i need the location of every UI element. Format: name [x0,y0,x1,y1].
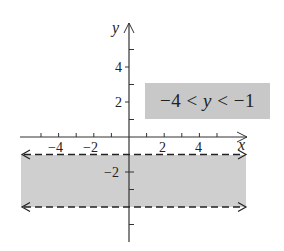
inequality-variable: y [203,90,212,112]
shaded-region [21,155,246,207]
y-axis [124,23,134,242]
y-tick-label: −2 [104,165,119,180]
inequality-suffix: < −1 [212,90,255,112]
y-axis-label: y [110,19,120,37]
inequality-graph: y x −4 −2 2 4 4 2 −2 [0,0,284,251]
x-tick-label: 4 [195,140,202,155]
inequality-prefix: −4 < [160,90,203,112]
y-tick-label: 2 [115,95,122,110]
y-tick-label: 4 [115,60,122,75]
inequality-label: −4 < y < −1 [145,83,270,119]
x-tick-label: 2 [159,140,166,155]
x-axis-label: x [237,136,245,153]
x-tick-label: −4 [48,140,63,155]
x-tick-label: −2 [83,140,98,155]
